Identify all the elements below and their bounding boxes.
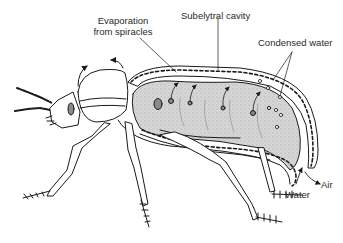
label-air: Air [321,179,333,190]
beetle-diagram: Evaporation from spiracles Subelytral ca… [0,0,343,243]
label-evaporation-line2: from spiracles [78,26,168,37]
label-condensed-water: Condensed water [258,37,332,48]
head-icon [46,92,80,128]
abdomen-icon [132,81,300,186]
label-evaporation-line1: Evaporation [78,15,168,26]
antenna-icon [15,88,52,111]
thorax-icon [78,69,128,122]
label-subelytral-cavity: Subelytral cavity [181,10,250,21]
label-water: Water [285,189,310,200]
